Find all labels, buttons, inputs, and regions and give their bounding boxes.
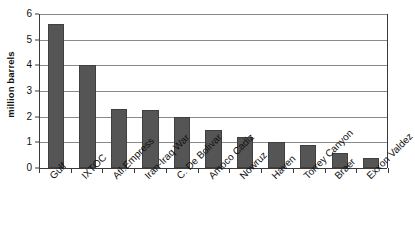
bar (48, 24, 64, 168)
bar-slot (40, 14, 72, 168)
x-tick-mark (39, 168, 40, 173)
x-tick-mark (102, 168, 103, 173)
y-tick-label: 0 (26, 163, 32, 173)
x-tick-mark (229, 168, 230, 173)
y-axis-tick-labels: 0123456 (18, 14, 35, 168)
x-axis-tick-labels: GulfIXTOCAtl.EmpressIran-Iraq WarC. De B… (39, 174, 388, 248)
x-tick-mark (198, 168, 199, 173)
x-tick-mark (293, 168, 294, 173)
bar-slot (261, 14, 293, 168)
bar-slot (72, 14, 104, 168)
x-tick-mark (356, 168, 357, 173)
x-tick-mark (388, 168, 389, 173)
y-tick-label: 4 (26, 60, 32, 70)
x-tick-mark (261, 168, 262, 173)
x-tick-mark (166, 168, 167, 173)
y-tick-label: 3 (26, 86, 32, 96)
x-tick-mark (134, 168, 135, 173)
y-axis-title: million barrels (2, 0, 18, 168)
y-tick-label: 1 (26, 137, 32, 147)
y-tick-label: 6 (26, 9, 32, 19)
bar (79, 65, 95, 168)
bar-slot (103, 14, 135, 168)
bar-slot (292, 14, 324, 168)
x-tick-mark (325, 168, 326, 173)
y-tick-label: 2 (26, 112, 32, 122)
y-tick-label: 5 (26, 35, 32, 45)
x-tick-mark (71, 168, 72, 173)
y-axis-title-text: million barrels (5, 51, 16, 117)
bar-slot (355, 14, 387, 168)
